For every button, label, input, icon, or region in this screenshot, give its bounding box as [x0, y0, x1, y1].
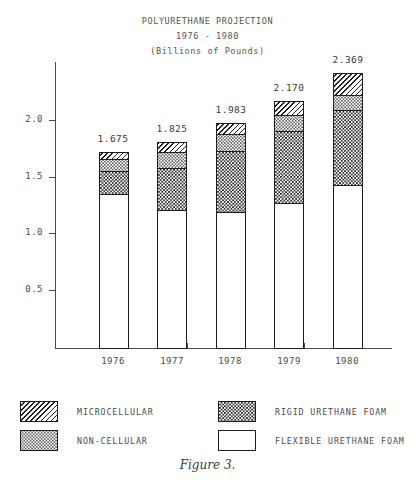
segment-flexible-urethane-foam-1977 — [158, 211, 186, 348]
legend-swatch-rigid-urethane-foam-icon — [218, 401, 256, 422]
segment-flexible-urethane-foam-1978 — [217, 213, 245, 348]
segment-flexible-urethane-foam-1979 — [275, 204, 303, 348]
bar-1980 — [333, 73, 363, 349]
legend-item-non-cellular: NON-CELLULAR — [20, 430, 148, 451]
y-axis-tick — [49, 290, 56, 291]
y-axis-tick-label: 2.0 — [25, 114, 43, 124]
y-axis-tick-label: 1.5 — [25, 171, 43, 181]
segment-microcellular-1978 — [217, 124, 245, 135]
y-axis-tick — [49, 233, 56, 234]
segment-rigid-urethane-foam-1979 — [275, 132, 303, 204]
chart-plot-area: 2.0 1.5 1.0 0.5 1976 1977 1978 1979 1980… — [0, 0, 415, 400]
legend-label-flexible-urethane-foam: FLEXIBLE URETHANE FOAM — [275, 436, 405, 446]
y-axis-tick-label: 1.0 — [25, 227, 43, 237]
legend-item-rigid-urethane-foam: RIGID URETHANE FOAM — [218, 401, 387, 422]
y-axis-tick — [49, 177, 56, 178]
y-axis-line — [55, 62, 56, 349]
segment-microcellular-1979 — [275, 102, 303, 116]
x-axis-label-1976: 1976 — [83, 356, 143, 366]
segment-flexible-urethane-foam-1976 — [100, 195, 128, 348]
segment-rigid-urethane-foam-1980 — [334, 111, 362, 186]
segment-microcellular-1980 — [334, 74, 362, 96]
segment-rigid-urethane-foam-1977 — [158, 169, 186, 211]
segment-non-cellular-1980 — [334, 96, 362, 111]
y-axis-tick — [49, 120, 56, 121]
bar-1979 — [274, 101, 304, 349]
segment-microcellular-1977 — [158, 143, 186, 153]
bar-value-1977: 1.825 — [140, 123, 204, 134]
legend-item-flexible-urethane-foam: FLEXIBLE URETHANE FOAM — [218, 430, 405, 451]
bar-value-1979: 2.170 — [257, 82, 321, 93]
bar-value-1976: 1.675 — [81, 133, 145, 144]
bar-value-1980: 2.369 — [316, 54, 380, 65]
segment-rigid-urethane-foam-1978 — [217, 152, 245, 213]
legend-swatch-non-cellular-icon — [20, 430, 58, 451]
bar-1978 — [216, 123, 246, 349]
figure-caption: Figure 3. — [0, 458, 415, 472]
x-axis-tick — [187, 343, 188, 349]
x-axis-label-1977: 1977 — [142, 356, 202, 366]
bar-1976 — [99, 152, 129, 349]
legend-label-microcellular: MICROCELLULAR — [77, 407, 154, 417]
y-axis-tick-label: 0.5 — [25, 284, 43, 294]
x-axis-label-1980: 1980 — [317, 356, 377, 366]
legend-swatch-flexible-urethane-foam-icon — [218, 430, 256, 451]
x-axis-tick — [304, 343, 305, 349]
segment-non-cellular-1976 — [100, 160, 128, 172]
legend-label-rigid-urethane-foam: RIGID URETHANE FOAM — [275, 407, 387, 417]
segment-non-cellular-1979 — [275, 116, 303, 132]
legend-item-microcellular: MICROCELLULAR — [20, 401, 154, 422]
legend-label-non-cellular: NON-CELLULAR — [77, 436, 148, 446]
x-axis-label-1978: 1978 — [200, 356, 260, 366]
bar-value-1978: 1.983 — [199, 104, 263, 115]
segment-flexible-urethane-foam-1980 — [334, 186, 362, 348]
x-axis-label-1979: 1979 — [259, 356, 319, 366]
segment-non-cellular-1978 — [217, 135, 245, 152]
segment-rigid-urethane-foam-1976 — [100, 172, 128, 195]
legend-swatch-microcellular-icon — [20, 401, 58, 422]
bar-1977 — [157, 142, 187, 349]
segment-non-cellular-1977 — [158, 153, 186, 169]
segment-microcellular-1976 — [100, 153, 128, 160]
chart-legend: MICROCELLULAR NON-CELLULAR RIGID URETHAN… — [0, 398, 415, 454]
